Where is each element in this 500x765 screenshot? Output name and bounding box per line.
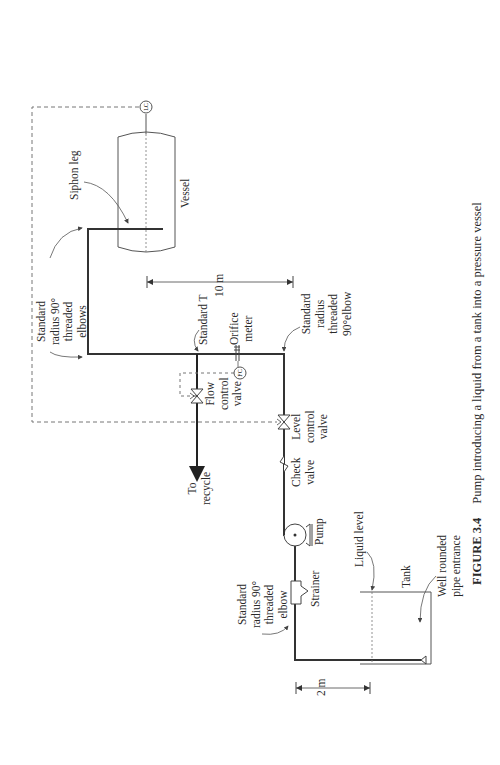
level-control-valve-icon — [277, 415, 290, 429]
label-level-control-valve: Level control valve — [290, 410, 331, 443]
elbows-top-leader-2 — [50, 352, 82, 357]
label-liquid-level: Liquid level — [353, 511, 367, 567]
svg-text:LC: LC — [143, 103, 149, 111]
label-orifice-meter: Orifice meter — [228, 312, 255, 345]
label-2m: 2 m — [315, 678, 329, 696]
figure-caption-text: Pump introducing a liquid from a tank in… — [470, 202, 484, 503]
figure-number: FIGURE 3.4 — [470, 518, 484, 585]
elbows-top-leader-1 — [50, 228, 82, 258]
label-flow-control-valve: Flow control valve — [204, 377, 245, 410]
label-strainer: Strainer — [309, 571, 323, 607]
level-controller-lc: LC — [140, 101, 152, 113]
siphon-leg-leader — [84, 182, 128, 223]
label-elbows-top: Standard radius 90° threaded elbows — [35, 298, 89, 345]
flow-control-valve-icon — [190, 389, 203, 403]
flow-controller-fc: FC — [234, 361, 246, 379]
process-flow-diagram: LC FC — [0, 0, 500, 765]
pipe-entrance-icon — [421, 656, 426, 664]
label-tank: Tank — [400, 565, 414, 588]
label-elbow-bottom: Standard radius 90° threaded elbow — [236, 581, 290, 628]
dimension-2m — [296, 682, 370, 694]
label-vessel: Vessel — [179, 179, 193, 208]
elbow-right-leader — [284, 327, 300, 351]
label-siphon-leg: Siphon leg — [68, 150, 82, 200]
pump-icon — [284, 524, 312, 546]
liquid-level-leader — [367, 552, 374, 590]
label-to-recycle: To recycle — [186, 472, 213, 505]
label-pump: Pump — [313, 518, 327, 545]
label-elbow-right: Standard radius threaded 90°elbow — [300, 292, 354, 336]
svg-text:FC: FC — [237, 369, 243, 376]
label-check-valve: Check valve — [290, 458, 317, 487]
strainer-icon — [291, 581, 308, 604]
figure-caption: FIGURE 3.4Pump introducing a liquid from… — [470, 202, 485, 585]
tank — [360, 592, 431, 664]
label-10m: 10 m — [213, 274, 227, 297]
pipe-entrance-leader — [420, 576, 436, 622]
label-pipe-entrance: Well rounded pipe entrance — [436, 535, 463, 597]
label-standard-t: Standard T — [197, 294, 211, 345]
vessel — [118, 114, 175, 253]
check-valve-icon — [280, 456, 288, 472]
